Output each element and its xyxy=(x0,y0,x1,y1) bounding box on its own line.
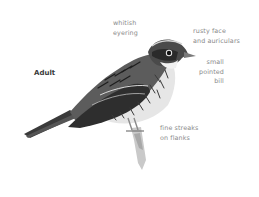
annotation-face: rusty face and auriculars xyxy=(193,27,240,46)
annotation-eyering: whitish eyering xyxy=(113,19,138,38)
age-label: Adult xyxy=(34,69,55,77)
annotation-flanks: fine streaks on flanks xyxy=(160,124,198,143)
annotation-bill: small pointed bill xyxy=(196,58,224,87)
